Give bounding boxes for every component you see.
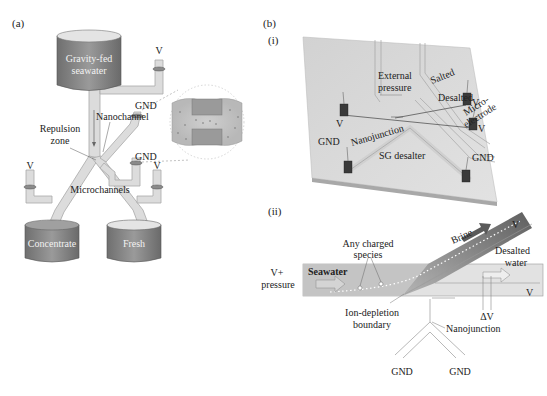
tank-fresh: Fresh (107, 220, 161, 262)
delta-v-label: ΔV (480, 311, 494, 322)
desalted-water-label-2: water (505, 257, 528, 268)
ion-depletion-label-1: Ion-depletion (345, 307, 399, 318)
gnd-left-label: GND (391, 366, 413, 377)
nanojunction-label: Nanojunction (446, 323, 500, 334)
external-pressure-label-1: External (378, 70, 412, 81)
nanochannel-zoom-inset (142, 85, 244, 162)
ion-depletion-label-2: boundary (353, 319, 391, 330)
repulsion-zone-label-1: Repulsion (40, 123, 81, 134)
charged-species-marker (379, 282, 383, 286)
pressure-label: pressure (261, 279, 295, 290)
gnd-right-chip-label: GND (472, 152, 494, 163)
svg-text:Fresh: Fresh (123, 238, 145, 249)
gnd-left-chip-label: GND (318, 136, 340, 147)
panel-b-label: (b) (263, 17, 276, 30)
nanochannel-label: Nanochannel (96, 111, 149, 122)
panel-b-ii: (ii) (261, 205, 543, 377)
seawater-label: Seawater (308, 266, 348, 277)
charged-species-label-2: species (354, 249, 383, 260)
v-top-label: V (155, 45, 163, 56)
panel-b-i: (b) (i) (263, 17, 499, 206)
v-left-label: V (26, 160, 34, 171)
sg-desalter-label: SG desalter (379, 150, 426, 161)
tank-gravity-fed-seawater: Gravity-fed seawater (57, 30, 121, 91)
charged-species-marker (358, 286, 362, 290)
charged-species-label-1: Any charged (342, 238, 393, 249)
panel-a-label: (a) (12, 17, 25, 30)
v-right-label: V (153, 160, 161, 171)
svg-text:Concentrate: Concentrate (28, 238, 77, 249)
panel-a: (a) (12, 17, 244, 262)
v-plus-label: V+ (271, 267, 284, 278)
gnd-right-label: GND (449, 366, 471, 377)
microchannels-label: Microchannels (70, 184, 130, 195)
desalted-water-label-1: Desalted (495, 245, 530, 256)
external-pressure-label-2: pressure (378, 82, 412, 93)
panel-b-i-label: (i) (268, 34, 279, 47)
desalted-label: Desalted (438, 92, 473, 103)
v-top-label: V (512, 219, 520, 230)
tank-concentrate: Concentrate (25, 220, 79, 262)
v-right2-chip-label: V (478, 123, 486, 134)
repulsion-zone-label-2: zone (51, 135, 70, 146)
gnd-upper-label: GND (135, 100, 157, 111)
v-left-chip-label: V (336, 118, 344, 129)
v-mid-label: V (526, 287, 534, 298)
v-right1-chip-label: V (472, 97, 480, 108)
panel-b-ii-label: (ii) (268, 205, 282, 218)
svg-text:seawater: seawater (72, 65, 108, 76)
figure-canvas: (a) (0, 0, 547, 396)
svg-text:Gravity-fed: Gravity-fed (66, 53, 113, 64)
